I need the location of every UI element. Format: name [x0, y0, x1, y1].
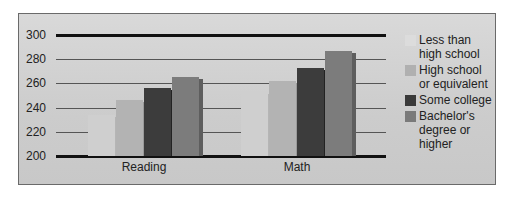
bar-math-3 — [325, 51, 352, 156]
bar-reading-0 — [88, 115, 115, 156]
legend-label: Some college — [419, 93, 495, 107]
legend-swatch — [405, 35, 416, 46]
x-category-label: Reading — [104, 160, 184, 174]
y-tick-label: 280 — [26, 52, 56, 66]
y-tick-label: 200 — [26, 149, 56, 163]
bar-reading-3 — [172, 77, 199, 156]
axis-line — [56, 34, 386, 37]
y-tick-label: 260 — [26, 76, 56, 90]
legend-label: Bachelor's degree or higher — [419, 109, 495, 151]
bar-reading-1 — [116, 100, 143, 156]
bar-reading-2 — [144, 88, 171, 156]
bar-math-1 — [269, 81, 296, 156]
bar-side — [352, 53, 356, 156]
legend-label: Less than high school — [419, 33, 495, 61]
legend-swatch — [405, 95, 416, 106]
y-tick-label: 240 — [26, 101, 56, 115]
legend-swatch — [405, 111, 416, 122]
legend: Less than high schoolHigh school or equi… — [405, 33, 495, 153]
bar-math-2 — [297, 68, 324, 156]
legend-label: High school or equivalent — [419, 63, 495, 91]
legend-item: Bachelor's degree or higher — [405, 109, 495, 151]
y-tick-label: 300 — [26, 28, 56, 42]
legend-item: High school or equivalent — [405, 63, 495, 91]
bar-side — [199, 79, 203, 156]
legend-swatch — [405, 65, 416, 76]
legend-item: Some college — [405, 93, 495, 107]
x-category-label: Math — [257, 160, 337, 174]
bar-math-0 — [241, 92, 268, 156]
legend-item: Less than high school — [405, 33, 495, 61]
y-tick-label: 220 — [26, 125, 56, 139]
